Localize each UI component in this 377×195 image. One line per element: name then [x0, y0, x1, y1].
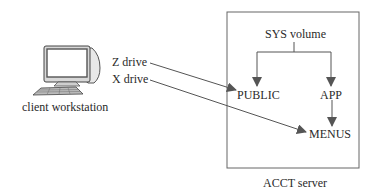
server-label: ACCT server [263, 177, 327, 189]
computer-workstation-icon [33, 46, 100, 95]
z-drive-arrow [150, 63, 236, 90]
public-folder-label: PUBLIC [237, 89, 280, 101]
sys-volume-label: SYS volume [265, 28, 326, 40]
tree-connectors [257, 42, 332, 126]
z-drive-label: Z drive [112, 56, 147, 68]
x-drive-label: X drive [112, 73, 148, 85]
client-workstation-label: client workstation [22, 101, 108, 113]
menus-folder-label: MENUS [309, 128, 351, 140]
drive-mapping-lines [150, 63, 306, 132]
app-folder-label: APP [320, 89, 342, 101]
